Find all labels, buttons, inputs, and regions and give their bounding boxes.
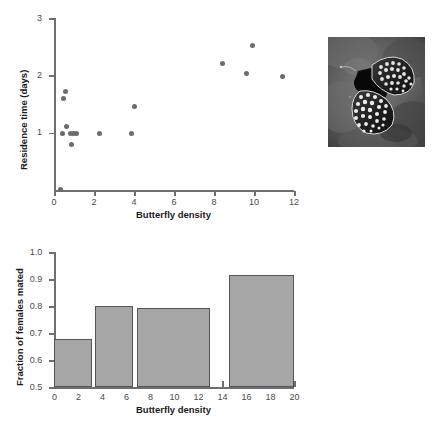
bar bbox=[54, 339, 92, 388]
scatter-point bbox=[60, 131, 65, 136]
scatter-plot-panel: Residence time (days) 3 2 1 0 2 4 6 8 10… bbox=[0, 0, 320, 225]
scatter-point bbox=[74, 131, 79, 136]
scatter-point bbox=[132, 104, 137, 109]
bar-chart-bars bbox=[0, 240, 320, 444]
bar bbox=[229, 275, 294, 387]
scatter-data-points bbox=[0, 0, 320, 225]
bar bbox=[95, 306, 133, 387]
scatter-point bbox=[97, 131, 102, 136]
scatter-point bbox=[220, 61, 225, 66]
scatter-point bbox=[58, 187, 63, 192]
scatter-point bbox=[129, 131, 134, 136]
scatter-point bbox=[244, 71, 249, 76]
scatter-point bbox=[280, 74, 285, 79]
scatter-point bbox=[64, 124, 69, 129]
scatter-point bbox=[69, 142, 74, 147]
scatter-point bbox=[61, 96, 66, 101]
butterfly-photo bbox=[328, 37, 425, 147]
bar-chart-panel: Fraction of females mated 1.0 0.9 0.8 0.… bbox=[0, 240, 320, 444]
bar bbox=[137, 308, 210, 388]
butterfly-photo-image bbox=[328, 37, 425, 147]
scatter-point bbox=[63, 89, 68, 94]
scatter-point bbox=[250, 43, 255, 48]
